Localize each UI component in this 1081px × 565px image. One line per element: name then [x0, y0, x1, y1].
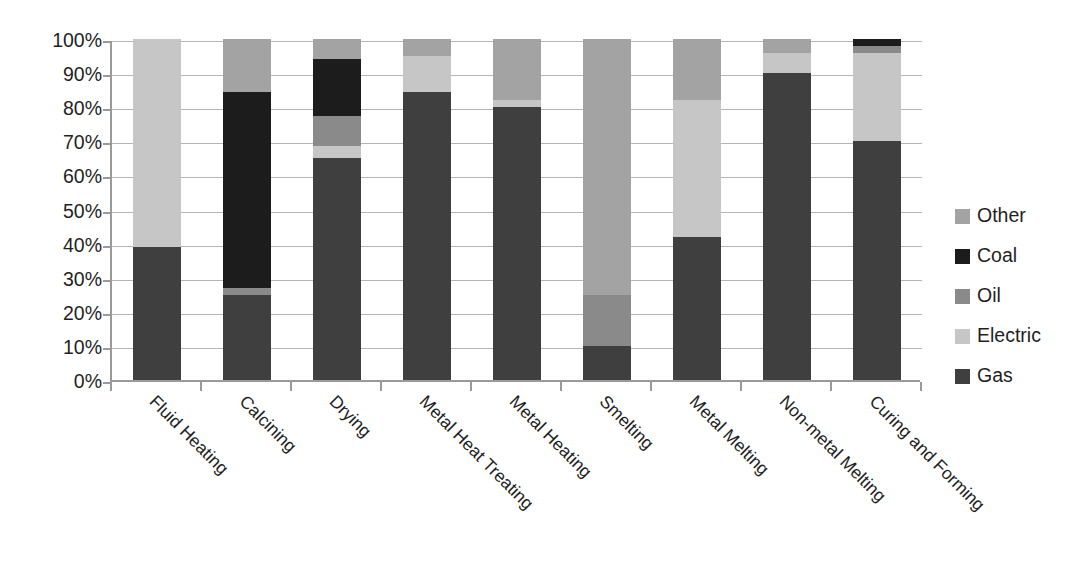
x-axis-category-label: Metal Melting: [686, 392, 773, 479]
legend-item-electric[interactable]: Electric: [955, 316, 1080, 356]
x-axis-tick-mark: [740, 382, 742, 391]
x-axis-tick-mark: [560, 382, 562, 391]
x-axis-tick-mark: [110, 382, 112, 391]
bar-group[interactable]: [673, 39, 721, 380]
bar-segment-oil[interactable]: [313, 116, 361, 147]
y-axis-tick-mark: [103, 246, 110, 248]
y-axis-tick-mark: [103, 280, 110, 282]
x-axis-tick-mark: [200, 382, 202, 391]
legend-item-oil[interactable]: Oil: [955, 276, 1080, 316]
bar-segment-electric[interactable]: [313, 146, 361, 158]
bar-segment-other[interactable]: [223, 39, 271, 92]
legend-item-other[interactable]: Other: [955, 196, 1080, 236]
bar-segment-electric[interactable]: [763, 53, 811, 73]
legend-swatch-gas: [955, 369, 970, 384]
bar-stack: [313, 39, 361, 380]
bar-stack: [763, 39, 811, 380]
y-axis-tick-mark: [103, 75, 110, 77]
bar-segment-gas[interactable]: [223, 295, 271, 380]
bar-segment-gas[interactable]: [853, 141, 901, 380]
bar-segment-oil[interactable]: [223, 288, 271, 295]
bar-stack: [133, 39, 181, 380]
x-axis-category-label: Calcining: [236, 392, 300, 456]
bar-segment-gas[interactable]: [133, 247, 181, 380]
x-axis-tick-mark: [470, 382, 472, 391]
bar-segment-coal[interactable]: [223, 92, 271, 288]
y-axis-tick-mark: [103, 382, 110, 384]
stacked-bar-chart: 100%90%80%70%60%50%40%30%20%10%0% Fluid …: [0, 0, 1081, 565]
bar-segment-other[interactable]: [763, 39, 811, 53]
y-axis-tick-label: 70%: [22, 134, 102, 154]
bar-segment-other[interactable]: [673, 39, 721, 100]
bar-segment-coal[interactable]: [853, 39, 901, 46]
x-axis-category-label: Drying: [326, 392, 375, 441]
y-axis-tick-label: 50%: [22, 202, 102, 222]
bar-segment-other[interactable]: [493, 39, 541, 100]
bar-group[interactable]: [763, 39, 811, 380]
y-axis-tick-mark: [103, 177, 110, 179]
bar-segment-electric[interactable]: [853, 53, 901, 142]
bar-segment-gas[interactable]: [673, 237, 721, 380]
legend-label: Electric: [977, 326, 1041, 346]
bar-segment-electric[interactable]: [673, 100, 721, 236]
legend-item-gas[interactable]: Gas: [955, 356, 1080, 396]
bar-segment-other[interactable]: [403, 39, 451, 56]
bar-group[interactable]: [313, 39, 361, 380]
bar-segment-gas[interactable]: [313, 158, 361, 380]
plot-area: [110, 41, 920, 382]
x-axis-tick-mark: [920, 382, 922, 391]
y-axis-tick-mark: [103, 109, 110, 111]
legend-label: Oil: [977, 286, 1001, 306]
bar-segment-gas[interactable]: [763, 73, 811, 380]
x-axis-tick-mark: [290, 382, 292, 391]
x-axis-category-label: Metal Heating: [506, 392, 595, 481]
bar-group[interactable]: [133, 39, 181, 380]
bar-stack: [853, 39, 901, 380]
legend-label: Other: [977, 206, 1026, 226]
legend-swatch-electric: [955, 329, 970, 344]
bar-segment-oil[interactable]: [583, 295, 631, 346]
y-axis-tick-label: 100%: [22, 31, 102, 51]
y-axis-tick-mark: [103, 212, 110, 214]
bar-segment-electric[interactable]: [493, 100, 541, 107]
y-axis-tick-mark: [103, 143, 110, 145]
bar-group[interactable]: [583, 39, 631, 380]
bar-segment-gas[interactable]: [493, 107, 541, 380]
bar-segment-other[interactable]: [583, 39, 631, 295]
y-axis-tick-label: 20%: [22, 304, 102, 324]
y-axis-tick-label: 60%: [22, 168, 102, 188]
legend-swatch-coal: [955, 249, 970, 264]
bar-segment-oil[interactable]: [853, 46, 901, 53]
bar-stack: [673, 39, 721, 380]
bar-group[interactable]: [223, 39, 271, 380]
bar-group[interactable]: [853, 39, 901, 380]
x-axis-tick-mark: [650, 382, 652, 391]
bar-stack: [493, 39, 541, 380]
x-axis-tick-mark: [830, 382, 832, 391]
bar-segment-gas[interactable]: [403, 92, 451, 380]
bar-segment-coal[interactable]: [313, 59, 361, 115]
x-axis-category-label: Fluid Heating: [146, 392, 232, 478]
bar-segment-electric[interactable]: [403, 56, 451, 92]
y-axis-tick-label: 90%: [22, 65, 102, 85]
legend-item-coal[interactable]: Coal: [955, 236, 1080, 276]
legend-label: Coal: [977, 246, 1017, 266]
bar-segment-other[interactable]: [313, 39, 361, 59]
bar-stack: [223, 39, 271, 380]
y-axis-tick-label: 80%: [22, 99, 102, 119]
y-axis-tick-mark: [103, 348, 110, 350]
legend-swatch-oil: [955, 289, 970, 304]
bar-group[interactable]: [403, 39, 451, 380]
y-axis-tick-label: 30%: [22, 270, 102, 290]
bar-group[interactable]: [493, 39, 541, 380]
x-axis-category-label: Smelting: [596, 392, 657, 453]
bar-segment-gas[interactable]: [583, 346, 631, 380]
bar-segment-electric[interactable]: [133, 39, 181, 247]
y-axis-tick-label: 40%: [22, 236, 102, 256]
legend-label: Gas: [977, 366, 1013, 386]
y-axis-tick-mark: [103, 41, 110, 43]
legend-swatch-other: [955, 209, 970, 224]
y-axis-tick-mark: [103, 314, 110, 316]
y-axis-tick-label: 10%: [22, 338, 102, 358]
bar-stack: [403, 39, 451, 380]
